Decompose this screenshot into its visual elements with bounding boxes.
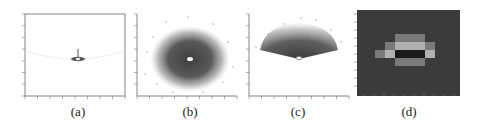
panel-d: (d) xyxy=(352,0,480,124)
scatter-plot-c xyxy=(246,12,352,100)
caption-a: (a) xyxy=(58,104,98,120)
caption-c: (c) xyxy=(278,104,318,120)
panel-b: (b) xyxy=(130,0,245,124)
scatter-plot-b xyxy=(133,12,241,100)
heatmap-d xyxy=(352,8,464,100)
panel-c: (c) xyxy=(243,0,353,124)
caption-d: (d) xyxy=(389,104,429,120)
caption-b: (b) xyxy=(170,104,210,120)
panel-a: (a) xyxy=(0,0,130,124)
scatter-plot-a xyxy=(22,12,128,100)
